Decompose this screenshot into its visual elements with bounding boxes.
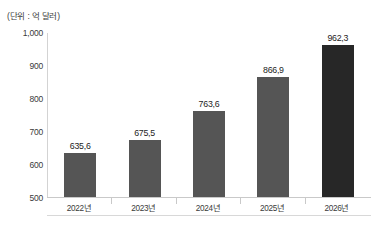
bar-value-label: 635,6 — [70, 141, 91, 151]
bar-2025년[interactable] — [257, 77, 289, 198]
bar-value-label: 675,5 — [134, 128, 155, 138]
bar-chart: (단위 : 억 달러) 1,000900800700600500 635,667… — [0, 0, 375, 228]
category-label: 2024년 — [196, 201, 221, 213]
y-axis-tick-1000: 1,000 — [9, 28, 43, 38]
category-separator — [111, 198, 112, 204]
bar-value-label: 962,3 — [327, 33, 348, 43]
category-label: 2026년 — [324, 201, 349, 213]
category-separator — [305, 198, 306, 204]
bar-value-label: 763,6 — [199, 99, 220, 109]
y-axis-tick-800: 800 — [9, 94, 43, 104]
category-separator — [176, 198, 177, 204]
bar-group: 675,5 — [112, 33, 176, 198]
category-cell-2026년: 2026년 — [305, 198, 369, 216]
category-separator — [240, 198, 241, 204]
bar-group: 635,6 — [48, 33, 112, 198]
bar-2024년[interactable] — [193, 111, 225, 198]
category-cell-2022년: 2022년 — [47, 198, 111, 216]
y-axis-tick-500: 500 — [9, 193, 43, 203]
bar-2022년[interactable] — [64, 153, 96, 198]
bar-2026년[interactable] — [322, 45, 354, 198]
bar-group: 763,6 — [177, 33, 241, 198]
bar-value-label: 866,9 — [263, 65, 284, 75]
category-label-band: 2022년2023년2024년2025년2026년 — [47, 198, 371, 216]
category-label: 2022년 — [67, 201, 92, 213]
bar-group: 866,9 — [241, 33, 305, 198]
category-label: 2023년 — [131, 201, 156, 213]
y-axis-tick-labels: 1,000900800700600500 — [5, 0, 43, 228]
y-axis-tick-700: 700 — [9, 127, 43, 137]
y-axis-tick-600: 600 — [9, 160, 43, 170]
category-cell-2023년: 2023년 — [111, 198, 175, 216]
category-cell-2025년: 2025년 — [240, 198, 304, 216]
category-cell-2024년: 2024년 — [176, 198, 240, 216]
plot-area: 635,6675,5763,6866,9962,3 — [48, 33, 370, 198]
category-label: 2025년 — [260, 201, 285, 213]
bar-group: 962,3 — [306, 33, 370, 198]
bar-2023년[interactable] — [129, 140, 161, 198]
y-axis-tick-900: 900 — [9, 61, 43, 71]
